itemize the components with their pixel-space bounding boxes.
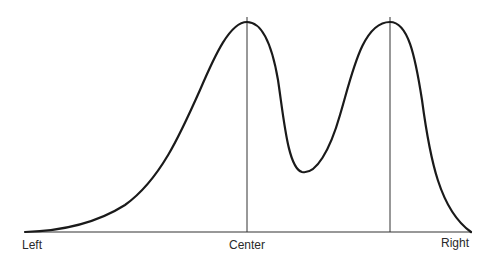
- label-right: Right: [441, 236, 469, 250]
- label-center: Center: [229, 238, 265, 252]
- label-left: Left: [22, 238, 42, 252]
- bimodal-diagram: [0, 0, 494, 263]
- distribution-curve: [25, 22, 471, 232]
